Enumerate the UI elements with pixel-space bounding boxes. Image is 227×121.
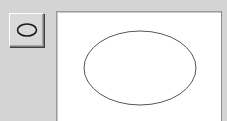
ellipse-tool-button[interactable] xyxy=(9,13,44,47)
drawing-canvas[interactable] xyxy=(56,11,222,121)
ellipse-icon xyxy=(16,22,38,38)
drawn-ellipse-shape[interactable] xyxy=(57,12,223,121)
